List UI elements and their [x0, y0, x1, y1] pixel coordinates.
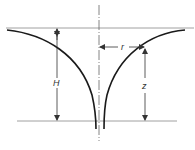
- H-label: H: [53, 78, 60, 88]
- z-label: z: [141, 81, 147, 91]
- vortex-profile-diagram: H r z: [0, 0, 195, 150]
- r-label: r: [121, 42, 125, 52]
- right-free-surface-curve: [104, 30, 185, 129]
- left-free-surface-curve: [7, 30, 96, 129]
